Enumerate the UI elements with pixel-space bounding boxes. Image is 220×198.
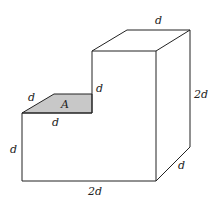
top-left-edge — [92, 30, 127, 51]
label-bottom-width: 2d — [87, 185, 102, 198]
label-right-height: 2d — [193, 88, 208, 101]
front-face-outline — [22, 51, 156, 181]
label-area-A: A — [60, 98, 69, 111]
top-right-edge — [156, 30, 190, 51]
label-left-height: d — [10, 143, 17, 156]
stepped-block-diagram: d 2d d 2d d d d d A — [0, 0, 220, 198]
label-ledge-depth: d — [28, 91, 35, 104]
label-top-depth: d — [155, 14, 162, 27]
label-ledge-width: d — [52, 116, 59, 129]
label-bottom-depth: d — [178, 159, 185, 172]
label-step-height: d — [96, 82, 103, 95]
